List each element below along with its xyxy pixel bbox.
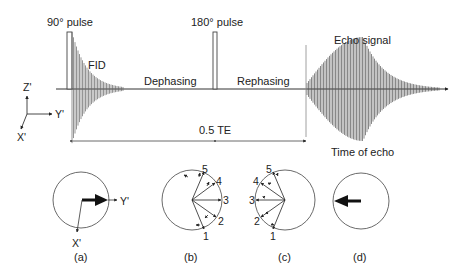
diagram-c-number-1: 1 <box>270 230 276 242</box>
diagram-b-caption: (b) <box>184 251 197 263</box>
fid-signal <box>72 32 123 143</box>
pulse-180-rect <box>213 32 217 89</box>
x-axis-label: X' <box>17 131 26 143</box>
pulse-180-label: 180° pulse <box>191 16 243 28</box>
diagram-b-number-2: 2 <box>218 215 224 227</box>
echo-signal <box>307 37 439 141</box>
diagram-a-x-label: X' <box>72 237 81 249</box>
diagram-b-number-1: 1 <box>203 230 209 242</box>
dephasing-label: Dephasing <box>144 75 197 87</box>
rephasing-label: Rephasing <box>237 75 290 87</box>
phase-diagram-a <box>53 172 117 232</box>
y-axis-label: Y' <box>55 108 64 120</box>
phase-diagram-c <box>255 170 315 230</box>
echo-signal-label: Echo signal <box>334 34 391 46</box>
diagram-c-number-4: 4 <box>253 175 259 187</box>
diagram-c-caption: (c) <box>278 251 291 263</box>
diagram-c-number-2: 2 <box>254 215 260 227</box>
spin-echo-diagram: 90° pulse 180° pulse FID Dephasing Repha… <box>0 0 465 277</box>
z-axis-label: Z' <box>23 81 31 93</box>
diagram-c-number-5: 5 <box>266 163 272 175</box>
diagram-c-number-3: 3 <box>249 194 255 206</box>
diagram-d-caption: (d) <box>353 251 366 263</box>
fid-label: FID <box>88 59 106 71</box>
half-te-arrow <box>70 140 306 142</box>
pulse-90-label: 90° pulse <box>47 16 93 28</box>
diagram-a-y-label: Y' <box>120 195 129 207</box>
coordinate-axes <box>21 96 52 129</box>
half-te-label: 0.5 TE <box>199 124 231 136</box>
phase-diagram-b <box>162 170 222 230</box>
diagram-graphics <box>0 0 465 277</box>
diagram-b-number-5: 5 <box>202 163 208 175</box>
phase-diagram-d <box>333 173 389 229</box>
diagram-b-number-4: 4 <box>216 175 222 187</box>
pulse-90-rect <box>67 32 72 89</box>
diagram-b-number-3: 3 <box>223 194 229 206</box>
time-of-echo-label: Time of echo <box>331 146 394 158</box>
diagram-a-caption: (a) <box>74 251 87 263</box>
